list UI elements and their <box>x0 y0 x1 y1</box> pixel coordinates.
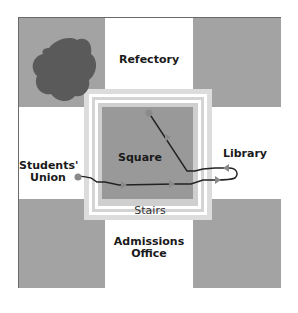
label-library: Library <box>217 148 273 160</box>
campus-map: Refectory Students' Union Square Library… <box>18 17 281 288</box>
label-square: Square <box>115 152 165 164</box>
arrow-marker-2 <box>169 180 175 188</box>
arrow-marker-5 <box>223 164 229 172</box>
label-admissions-line2: Office <box>105 248 193 260</box>
label-stairs: Stairs <box>125 205 175 217</box>
label-students-union: Students' Union <box>19 160 77 184</box>
label-admissions-office: Admissions Office <box>105 236 193 260</box>
label-refectory: Refectory <box>105 54 193 66</box>
label-students-union-line2: Union <box>19 172 77 184</box>
arrow-marker-4 <box>215 176 221 184</box>
dark-blob <box>33 38 96 101</box>
square-dot <box>146 110 153 117</box>
route-main <box>78 176 215 185</box>
arrow-marker-1 <box>121 181 127 189</box>
